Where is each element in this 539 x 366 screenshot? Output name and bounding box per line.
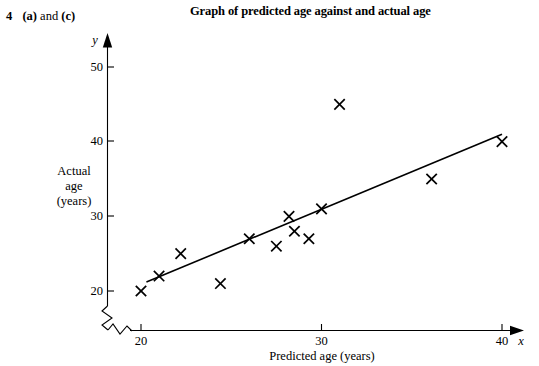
y-axis-arrow bbox=[103, 33, 112, 48]
data-point-marker bbox=[271, 241, 281, 251]
data-point-marker bbox=[426, 174, 436, 184]
data-point-marker bbox=[244, 234, 254, 244]
y-axis-variable-label: y bbox=[90, 33, 98, 47]
data-point-marker bbox=[284, 211, 294, 221]
scatter-plot: 50 40 30 20 y Actual age (years) 20 30 4… bbox=[0, 0, 539, 366]
x-axis-variable-label: x bbox=[517, 334, 524, 348]
y-tick-label-50: 50 bbox=[91, 60, 104, 74]
y-axis-title-line-2: age bbox=[65, 179, 83, 193]
x-tick-label-40: 40 bbox=[496, 334, 509, 348]
figure-page: 4 (a) and (c) Graph of predicted age aga… bbox=[0, 0, 539, 366]
y-tick-label-30: 30 bbox=[91, 209, 104, 223]
data-point-group bbox=[136, 99, 507, 296]
data-point-marker bbox=[334, 99, 344, 109]
x-tick-label-20: 20 bbox=[135, 334, 148, 348]
x-axis-ticks bbox=[141, 324, 502, 331]
y-axis-title-line-1: Actual bbox=[57, 164, 91, 178]
data-point-marker bbox=[215, 278, 225, 288]
y-axis-title-line-3: (years) bbox=[57, 194, 92, 208]
x-tick-label-30: 30 bbox=[315, 334, 328, 348]
trend-line bbox=[146, 134, 502, 282]
data-point-marker bbox=[136, 286, 146, 296]
data-point-marker bbox=[497, 136, 507, 146]
data-point-marker bbox=[176, 248, 186, 258]
data-point-marker bbox=[289, 226, 299, 236]
y-tick-label-40: 40 bbox=[91, 134, 104, 148]
x-axis-title: Predicted age (years) bbox=[269, 349, 375, 363]
y-tick-label-20: 20 bbox=[91, 284, 104, 298]
x-axis-break-icon bbox=[108, 324, 132, 334]
y-axis-ticks bbox=[108, 67, 115, 291]
data-point-marker bbox=[304, 234, 314, 244]
data-point-marker bbox=[316, 204, 326, 214]
